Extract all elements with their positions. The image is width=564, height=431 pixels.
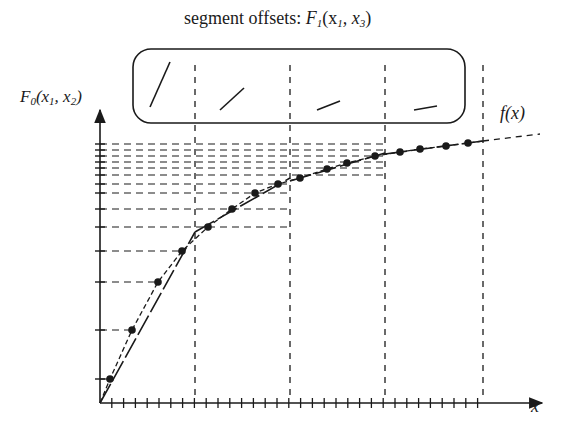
curve-extension-dashed xyxy=(483,134,540,141)
sample-point-2-2 xyxy=(228,205,236,213)
x-axis-label: x xyxy=(531,396,539,417)
y-axis-label: F0(x1, x2) xyxy=(20,87,82,107)
segment-offsets-box xyxy=(133,49,465,123)
sample-point-3-3 xyxy=(343,159,351,167)
sample-point-1-4 xyxy=(178,247,186,255)
diagram-stage: segment offsets: F1(x1, x3) F0(x1, x2) f… xyxy=(0,0,564,431)
sample-point-1-1 xyxy=(106,375,114,383)
sample-point-1-3 xyxy=(154,278,162,286)
offsets-rounded-box xyxy=(133,49,465,123)
segment-offset-slope-1 xyxy=(150,62,170,107)
linear-segment-1 xyxy=(100,232,195,403)
sample-point-2-4 xyxy=(274,180,282,188)
sample-point-3-1 xyxy=(296,174,304,182)
curve-label-f-x: f(x) xyxy=(500,103,525,124)
segment-offset-slope-4 xyxy=(414,106,437,110)
sample-point-4-1 xyxy=(396,148,404,156)
y-level-dashed-guides xyxy=(100,144,385,379)
axes xyxy=(95,110,542,408)
linear-segment-3 xyxy=(290,153,385,181)
sample-points xyxy=(106,139,472,383)
segment-offset-slope-2 xyxy=(220,88,244,110)
segment-offsets-title: segment offsets: F1(x1, x3) xyxy=(184,8,371,29)
sample-point-1-2 xyxy=(128,326,136,334)
piecewise-linear-approximation-plot xyxy=(0,0,564,431)
sample-point-4-4 xyxy=(464,139,472,147)
sample-point-2-1 xyxy=(204,223,212,231)
segment-offset-slope-3 xyxy=(317,101,340,110)
segment-boundary-dashed-lines xyxy=(195,65,483,399)
sample-point-3-4 xyxy=(371,152,379,160)
sample-point-2-3 xyxy=(251,189,259,197)
sample-point-3-2 xyxy=(323,165,331,173)
function-curve-f-x xyxy=(100,134,540,403)
sample-point-4-3 xyxy=(442,142,450,150)
sample-point-4-2 xyxy=(416,145,424,153)
